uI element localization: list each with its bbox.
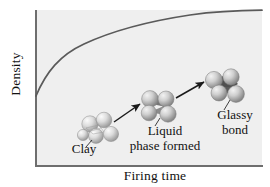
x-axis-label: Firing time bbox=[95, 168, 215, 184]
annotation-label-clay: Clay bbox=[56, 142, 112, 157]
cluster-clay bbox=[77, 112, 118, 143]
arrow-liquid-to-glassy bbox=[176, 82, 204, 98]
arrow-clay-to-liquid bbox=[114, 104, 140, 122]
annotation-label-liquid-phase-formed: Liquid phase formed bbox=[116, 124, 214, 153]
figure-densification-vs-firing-time: Density Firing time Clay Liquid phase fo… bbox=[0, 0, 270, 187]
annotation-label-glassy-bond: Glassy bond bbox=[206, 108, 264, 137]
y-axis-label: Density bbox=[8, 34, 24, 114]
cluster-liquid-phase bbox=[141, 91, 176, 123]
cluster-glassy-bond bbox=[205, 69, 244, 103]
figure-graphics bbox=[0, 0, 270, 187]
